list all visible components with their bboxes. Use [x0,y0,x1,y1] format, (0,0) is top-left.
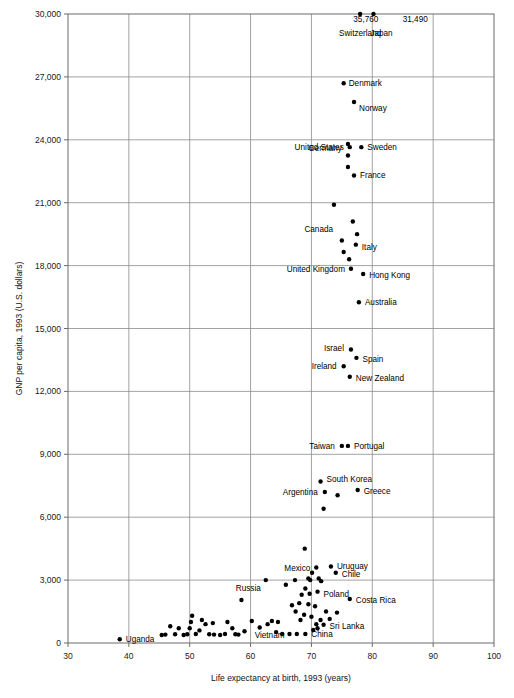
data-point[interactable] [308,578,312,582]
data-point[interactable] [181,633,185,637]
y-tick-label: 21,000 [35,198,61,208]
data-point-israel[interactable] [349,347,353,351]
data-point[interactable] [298,618,302,622]
data-point[interactable] [313,604,317,608]
x-tick-label: 90 [428,651,438,661]
data-point-china[interactable] [303,632,307,636]
data-point-spain[interactable] [354,356,358,360]
data-point[interactable] [299,593,303,597]
data-point[interactable] [230,626,234,630]
data-point-australia[interactable] [357,300,361,304]
data-point-mexico[interactable] [314,565,318,569]
point-label-united-kingdom: United Kingdom [287,265,345,274]
data-point[interactable] [293,609,297,613]
data-point-italy[interactable] [354,242,358,246]
data-point[interactable] [211,621,215,625]
data-point-poland[interactable] [315,589,319,593]
data-point[interactable] [177,626,181,630]
data-point[interactable] [188,626,192,630]
y-tick-label: 6,000 [40,512,62,522]
data-point-canada[interactable] [355,232,359,236]
data-point[interactable] [280,632,284,636]
data-point[interactable] [168,624,172,628]
data-point[interactable] [218,633,222,637]
data-point-uruguay[interactable] [329,564,333,568]
data-point[interactable] [207,632,211,636]
data-point[interactable] [318,618,322,622]
data-point[interactable] [307,592,311,596]
data-point[interactable] [332,203,336,207]
data-point[interactable] [321,507,325,511]
data-point[interactable] [242,629,246,633]
data-point-hong-kong[interactable] [361,272,365,276]
data-point[interactable] [197,628,201,632]
data-point[interactable] [258,625,262,629]
data-point[interactable] [340,238,344,242]
data-point[interactable] [284,583,288,587]
data-point-norway[interactable] [352,100,356,104]
data-point[interactable] [190,614,194,618]
data-point[interactable] [185,632,189,636]
point-label-russia: Russia [236,584,261,593]
data-point[interactable] [270,619,274,623]
data-point[interactable] [327,617,331,621]
data-point[interactable] [310,571,314,575]
data-point[interactable] [173,632,177,636]
data-point[interactable] [319,579,323,583]
data-point[interactable] [309,615,313,619]
data-point-chile[interactable] [334,571,338,575]
data-point-new-zealand[interactable] [348,375,352,379]
data-point[interactable] [203,622,207,626]
data-point[interactable] [303,546,307,550]
data-point-united-kingdom[interactable] [349,267,353,271]
data-point[interactable] [160,633,164,637]
x-tick-label: 60 [246,651,256,661]
data-point[interactable] [306,602,310,606]
data-point[interactable] [212,632,216,636]
data-point[interactable] [239,598,243,602]
data-point[interactable] [351,219,355,223]
data-point-denmark[interactable] [341,81,345,85]
data-point[interactable] [324,609,328,613]
data-point[interactable] [290,603,294,607]
data-point-germany[interactable] [346,142,350,146]
data-point[interactable] [265,622,269,626]
data-point[interactable] [346,153,350,157]
x-tick-label: 40 [124,651,134,661]
data-point[interactable] [347,257,351,261]
data-point[interactable] [314,622,318,626]
data-point-greece[interactable] [355,488,359,492]
data-point-costa-rica[interactable] [348,597,352,601]
data-point-portugal[interactable] [346,444,350,448]
data-point-france[interactable] [352,173,356,177]
data-point-south-korea[interactable] [318,479,322,483]
data-point[interactable] [274,630,278,634]
data-point[interactable] [194,632,198,636]
data-point-sri-lanka[interactable] [321,623,325,627]
data-point[interactable] [335,493,339,497]
point-label-norway: Norway [359,104,388,113]
data-point[interactable] [236,632,240,636]
data-point[interactable] [297,601,301,605]
data-point-vietnam[interactable] [287,632,291,636]
data-point[interactable] [346,165,350,169]
data-point[interactable] [335,610,339,614]
data-point[interactable] [341,250,345,254]
data-point-sweden[interactable] [359,145,363,149]
data-point[interactable] [293,578,297,582]
data-point-argentina[interactable] [323,490,327,494]
data-point[interactable] [200,618,204,622]
data-point-uganda[interactable] [118,637,122,641]
data-point[interactable] [189,620,193,624]
data-point[interactable] [295,632,299,636]
data-point-russia[interactable] [264,578,268,582]
data-point[interactable] [303,586,307,590]
data-point[interactable] [302,612,306,616]
data-point-ireland[interactable] [341,364,345,368]
point-label-vietnam: Vietnam [255,631,285,640]
data-point[interactable] [250,619,254,623]
data-point[interactable] [225,620,229,624]
data-point-taiwan[interactable] [340,444,344,448]
data-point[interactable] [276,620,280,624]
data-point[interactable] [223,632,227,636]
